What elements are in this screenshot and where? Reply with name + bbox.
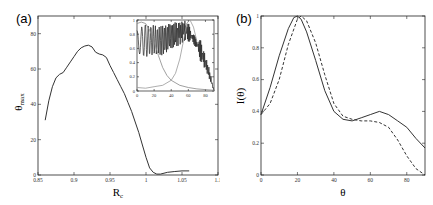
x-tick-label: 0.9 [71,177,78,183]
y-tick-label: 0.6 [129,46,135,51]
y-tick-label: 0.6 [252,76,259,82]
x-tick-label: 0.95 [105,177,115,183]
x-tick-label: 60 [186,93,191,98]
x-tick-label: 80 [203,93,208,98]
y-tick-label: 1 [133,18,135,23]
y-axis-label-b: I(θ) [234,88,247,105]
x-tick-label: 20 [152,93,157,98]
y-tick-label: 1 [256,13,259,19]
panel-label-a: (a) [16,11,32,26]
chart-b-svg: (b) 02040608000.20.40.60.81 θ I(θ) [216,0,433,205]
x-tick-label: 80 [404,177,410,183]
x-tick-label: 0 [136,93,139,98]
x-tick-label: 60 [368,177,374,183]
y-tick-label: 80 [31,31,37,37]
solid-intensity-curve [261,16,425,148]
y-tick-label: 0.4 [252,108,259,114]
x-tick-label: 40 [331,177,337,183]
y-tick-label: 0.8 [129,32,135,37]
chart-a-svg: (a) 0.850.90.9511.051.1020406080 Rc θmax… [0,0,220,205]
y-tick-label: 60 [31,66,37,72]
x-tick-label: 20 [295,177,301,183]
inset-a: 02040608000.20.40.60.81 [129,18,214,98]
dashed-intensity-curve [261,16,425,175]
panel-b: (b) 02040608000.20.40.60.81 θ I(θ) [216,0,433,205]
x-tick-label: 1.05 [177,177,187,183]
axis-ticks-b: 02040608000.20.40.60.81 [252,13,425,183]
y-tick-label: 0.4 [129,60,135,65]
x-axis-label-a: Rc [113,186,123,200]
x-axis-label-b: θ [340,186,345,198]
y-tick-label: 0.2 [129,74,135,79]
x-tick-label: 0 [260,177,263,183]
y-axis-label-a: θmax [12,93,26,111]
y-tick-label: 0.8 [252,45,259,51]
x-tick-label: 1 [145,177,148,183]
y-tick-label: 40 [31,101,37,107]
x-tick-label: 40 [169,93,174,98]
panel-a: (a) 0.850.90.9511.051.1020406080 Rc θmax… [0,0,220,205]
y-tick-label: 0.2 [252,140,259,146]
y-tick-label: 20 [31,137,37,143]
y-tick-label: 0 [256,172,259,178]
plot-frame-b [261,16,425,175]
panel-label-b: (b) [236,11,252,26]
y-tick-label: 0 [33,172,36,178]
